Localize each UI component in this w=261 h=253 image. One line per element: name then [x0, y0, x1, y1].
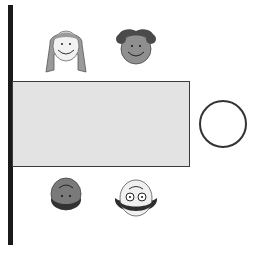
table	[12, 81, 190, 167]
empty-seat-circle	[199, 100, 247, 148]
person-bottom-left-face-icon	[45, 174, 87, 218]
person-bottom-right-face-icon	[111, 176, 161, 224]
person-top-left-face-icon	[44, 24, 88, 74]
person-top-right-face-icon	[111, 25, 161, 67]
